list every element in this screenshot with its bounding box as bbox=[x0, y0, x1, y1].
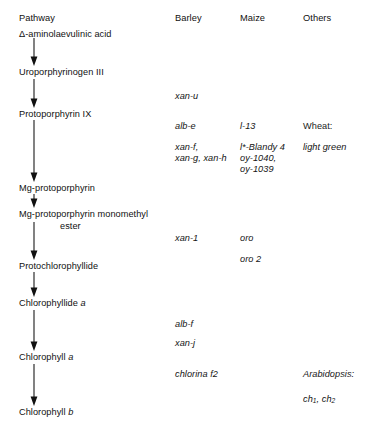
pathway-step-protochlorophyllide: Protochlorophyllide bbox=[19, 260, 98, 273]
arabidopsis-ch2-subscript: 2 bbox=[332, 397, 336, 404]
barley-mutant-alb-f: alb-f bbox=[175, 318, 193, 331]
arrow-chlide-to-chl-a bbox=[31, 310, 38, 351]
barley-mutant-alb-e: alb-e bbox=[175, 120, 196, 133]
column-header-others: Others bbox=[303, 12, 331, 25]
others-wheat-mutant-light-green: light green bbox=[303, 141, 346, 154]
pathway-step-chlorophyllide-a: Chlorophyllide a bbox=[19, 297, 86, 310]
barley-mutant-xan-1: xan-1 bbox=[175, 232, 198, 245]
pathway-step-chlorophyll-a-text: Chlorophyll bbox=[19, 352, 66, 362]
barley-mutant-xan-u: xan-u bbox=[175, 90, 198, 103]
arrow-mgmme-to-pchlide bbox=[31, 222, 38, 260]
pathway-step-mg-protoporphyrin-monomethyl-ester-line2: ester bbox=[60, 220, 81, 233]
pathway-step-chlorophyll-b-suffix: b bbox=[68, 407, 73, 417]
pathway-step-mg-protoporphyrin-monomethyl-ester-line1: Mg-protoporphyrin monomethyl bbox=[19, 208, 148, 221]
pathway-step-ala: Δ-aminolaevulinic acid bbox=[19, 28, 112, 41]
arabidopsis-ch1-base: ch bbox=[303, 394, 313, 404]
others-arabidopsis-label: Arabidopsis: bbox=[303, 368, 354, 381]
pathway-step-chlorophyll-b-text: Chlorophyll bbox=[19, 407, 66, 417]
arrow-uro-to-proto9 bbox=[31, 79, 38, 108]
column-header-pathway: Pathway bbox=[19, 12, 55, 25]
pathway-step-uroporphyrinogen-iii: Uroporphyrinogen III bbox=[19, 66, 104, 79]
column-header-barley: Barley bbox=[175, 12, 202, 25]
others-arabidopsis-mutants-ch1-ch2: ch1, ch2 bbox=[303, 393, 335, 406]
pathway-step-chlorophyllide-a-text: Chlorophyllide bbox=[19, 298, 78, 308]
barley-mutant-xan-g-xan-h: xan-g, xan-h bbox=[175, 152, 227, 165]
maize-mutant-l-13: l-13 bbox=[240, 120, 256, 133]
pathway-step-chlorophyllide-a-suffix: a bbox=[81, 298, 86, 308]
pathway-step-chlorophyll-a-suffix: a bbox=[68, 352, 73, 362]
barley-mutant-xan-j: xan-j bbox=[175, 337, 195, 350]
maize-mutant-oro-2: oro 2 bbox=[240, 253, 261, 266]
arabidopsis-ch2-base: ch bbox=[322, 394, 332, 404]
maize-mutant-oro: oro bbox=[240, 232, 253, 245]
pathway-step-protoporphyrin-ix: Protoporphyrin IX bbox=[19, 108, 91, 121]
pathway-step-chlorophyll-b: Chlorophyll b bbox=[19, 406, 73, 419]
pathway-step-chlorophyll-a: Chlorophyll a bbox=[19, 351, 73, 364]
arrow-proto9-to-mgproto bbox=[31, 120, 38, 182]
column-header-maize: Maize bbox=[240, 12, 265, 25]
pathway-diagram: Pathway Barley Maize Others Δ-aminolaevu… bbox=[0, 0, 371, 433]
arrow-ala-to-uro bbox=[31, 38, 38, 66]
arrow-mgproto-to-mgmme bbox=[31, 194, 38, 208]
pathway-step-mg-protoporphyrin: Mg-protoporphyrin bbox=[19, 182, 95, 195]
arrow-pchlide-to-chlide bbox=[31, 272, 38, 297]
arrow-chl-a-to-chl-b bbox=[31, 364, 38, 406]
others-wheat-label: Wheat: bbox=[303, 120, 332, 133]
maize-mutant-oy-1039: oy-1039 bbox=[240, 163, 274, 176]
barley-mutant-chlorina-f2: chlorina f2 bbox=[175, 368, 218, 381]
